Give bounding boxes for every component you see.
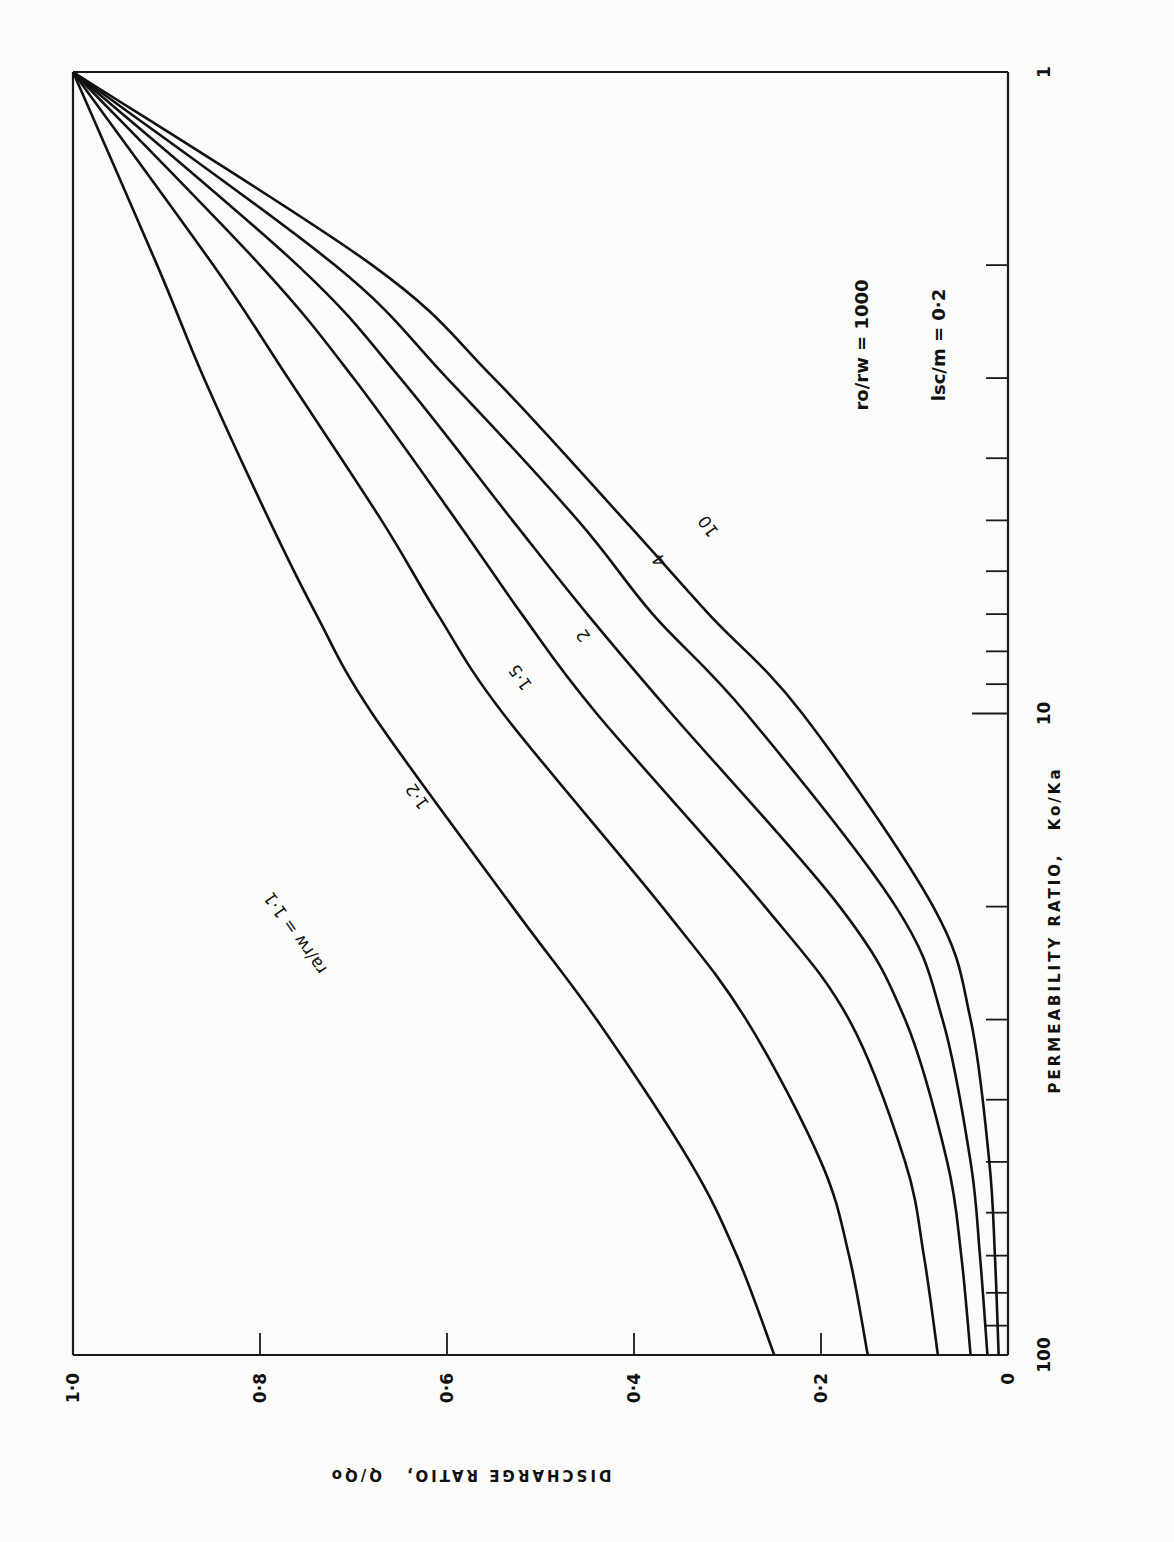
curve-ra-rw-1-1 xyxy=(73,72,774,1355)
svg-text:DISCHARGE RATIO, Q/Qo: DISCHARGE RATIO, Q/Qo xyxy=(329,1466,612,1484)
chart: 1·00·80·60·40·20110100 ra/rw = 1·11·21·5… xyxy=(0,0,1174,1542)
svg-text:100: 100 xyxy=(1034,1337,1054,1373)
y-tick-label: 0·6 xyxy=(437,1373,457,1403)
svg-text:10: 10 xyxy=(1034,702,1054,726)
svg-text:1·5: 1·5 xyxy=(504,661,536,695)
y-tick-label: 0·2 xyxy=(811,1373,831,1403)
x-tick-label: 1 xyxy=(1034,66,1054,78)
curve-labels: ra/rw = 1·11·21·52410 xyxy=(259,512,722,979)
svg-text:lsc/m = 0·2: lsc/m = 0·2 xyxy=(928,289,949,401)
curve-label: 10 xyxy=(694,512,723,541)
curve-1-5 xyxy=(73,72,938,1355)
svg-text:0·8: 0·8 xyxy=(250,1373,270,1403)
y-tick-label: 1·0 xyxy=(63,1373,83,1403)
svg-text:ra/rw = 1·1: ra/rw = 1·1 xyxy=(259,888,331,978)
y-tick-label: 0·4 xyxy=(624,1373,644,1403)
y-tick-label: 0 xyxy=(998,1373,1018,1385)
curve-label: ra/rw = 1·1 xyxy=(259,888,331,978)
curve-1-2 xyxy=(73,72,868,1355)
curve-label: 1·2 xyxy=(401,780,433,814)
svg-text:2: 2 xyxy=(572,625,595,645)
curves xyxy=(73,72,999,1355)
svg-text:10: 10 xyxy=(694,512,723,541)
tick-labels: 1·00·80·60·40·20110100 xyxy=(63,66,1054,1403)
annotation-lsc-m: lsc/m = 0·2 xyxy=(928,289,949,401)
svg-text:1·2: 1·2 xyxy=(401,780,433,814)
curve-label: 2 xyxy=(572,625,595,645)
y-tick-label: 0·8 xyxy=(250,1373,270,1403)
svg-text:1: 1 xyxy=(1034,66,1054,78)
y-axis-title: DISCHARGE RATIO, Q/Qo xyxy=(329,1466,612,1484)
svg-text:0·6: 0·6 xyxy=(437,1373,457,1403)
y-ticks xyxy=(260,1333,821,1355)
svg-text:1·0: 1·0 xyxy=(63,1373,83,1403)
annotation-ro-rw: ro/rw = 1000 xyxy=(851,279,872,410)
curve-2 xyxy=(73,72,971,1355)
x-axis-title: PERMEABILITY RATIO, Ko/Ka xyxy=(1046,766,1064,1093)
curve-4 xyxy=(73,72,987,1355)
svg-text:0: 0 xyxy=(998,1373,1018,1385)
x-tick-label: 100 xyxy=(1034,1337,1054,1373)
svg-text:PERMEABILITY RATIO, Ko/K: PERMEABILITY RATIO, Ko/Ka xyxy=(1046,766,1064,1093)
x-tick-label: 10 xyxy=(1034,702,1054,726)
svg-text:ro/rw = 1000: ro/rw = 1000 xyxy=(851,279,872,410)
svg-text:0·2: 0·2 xyxy=(811,1373,831,1403)
curve-label: 1·5 xyxy=(504,661,536,695)
svg-text:0·4: 0·4 xyxy=(624,1373,644,1403)
